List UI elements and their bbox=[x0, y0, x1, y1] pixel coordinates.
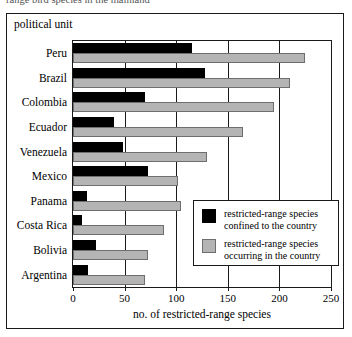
bar-row: Ecuador bbox=[73, 115, 331, 140]
black-swatch-icon bbox=[202, 209, 216, 223]
bar-confined bbox=[73, 265, 88, 275]
bar-confined bbox=[73, 43, 192, 53]
bar-confined bbox=[73, 142, 123, 152]
category-label: Ecuador bbox=[29, 121, 67, 133]
legend-line-2: confined to the country bbox=[224, 220, 317, 231]
category-label: Bolivia bbox=[33, 244, 67, 256]
x-axis-title: no. of restricted-range species bbox=[72, 308, 332, 321]
legend-item: restricted-range species confined to the… bbox=[202, 208, 332, 231]
x-tick-label: 100 bbox=[168, 292, 185, 304]
legend-item-label: restricted-range species occurring in th… bbox=[224, 238, 320, 261]
bar-confined bbox=[73, 215, 82, 225]
category-label: Peru bbox=[46, 47, 67, 59]
legend-line-1: restricted-range species bbox=[224, 238, 318, 249]
category-label: Panama bbox=[31, 195, 67, 207]
bar-occurring bbox=[73, 250, 148, 260]
bar-occurring bbox=[73, 127, 243, 137]
x-tick bbox=[125, 287, 126, 291]
category-label: Argentina bbox=[21, 269, 67, 281]
bar-confined bbox=[73, 240, 96, 250]
legend-item-label: restricted-range species confined to the… bbox=[224, 208, 318, 231]
x-tick-label: 50 bbox=[119, 292, 130, 304]
bar-row: Argentina bbox=[73, 262, 331, 287]
x-tick bbox=[331, 287, 332, 291]
x-tick-label: 250 bbox=[323, 292, 340, 304]
category-label: Brazil bbox=[39, 72, 67, 84]
category-label: Costa Rica bbox=[17, 219, 67, 231]
bar-occurring bbox=[73, 275, 145, 285]
gray-swatch-icon bbox=[202, 239, 216, 253]
bar-occurring bbox=[73, 53, 305, 63]
bar-confined bbox=[73, 191, 87, 201]
bar-row: Peru bbox=[73, 41, 331, 66]
bar-confined bbox=[73, 117, 114, 127]
y-axis-title: political unit bbox=[14, 18, 72, 31]
category-label: Mexico bbox=[32, 170, 67, 182]
bar-row: Mexico bbox=[73, 164, 331, 189]
bar-row: Colombia bbox=[73, 90, 331, 115]
x-tick bbox=[73, 287, 74, 291]
x-tick bbox=[176, 287, 177, 291]
category-label: Colombia bbox=[22, 96, 67, 108]
x-tick-label: 150 bbox=[220, 292, 237, 304]
chart-figure: range bird species in the mainland polit… bbox=[0, 0, 352, 337]
legend-item: restricted-range species occurring in th… bbox=[202, 238, 332, 261]
cut-off-caption: range bird species in the mainland bbox=[6, 0, 306, 6]
bar-confined bbox=[73, 92, 145, 102]
x-tick-label: 200 bbox=[271, 292, 288, 304]
bar-confined bbox=[73, 68, 205, 78]
bar-occurring bbox=[73, 102, 274, 112]
bar-occurring bbox=[73, 176, 178, 186]
legend-line-2: occurring in the country bbox=[224, 250, 320, 261]
x-tick bbox=[228, 287, 229, 291]
category-label: Venezuela bbox=[20, 146, 67, 158]
bar-row: Venezuela bbox=[73, 139, 331, 164]
bar-occurring bbox=[73, 78, 290, 88]
x-tick bbox=[279, 287, 280, 291]
bar-occurring bbox=[73, 225, 164, 235]
x-tick-label: 0 bbox=[70, 292, 76, 304]
bar-row: Brazil bbox=[73, 66, 331, 91]
bar-confined bbox=[73, 166, 148, 176]
legend: restricted-range species confined to the… bbox=[193, 200, 339, 266]
bar-occurring bbox=[73, 201, 181, 211]
bar-occurring bbox=[73, 152, 207, 162]
legend-line-1: restricted-range species bbox=[224, 208, 318, 219]
